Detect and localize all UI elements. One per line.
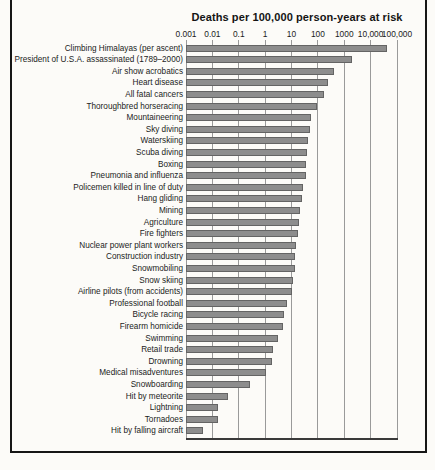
category-label: Medical misadventures xyxy=(0,367,183,378)
category-label: Boxing xyxy=(0,159,183,170)
x-axis-tick-label: 10,000 xyxy=(358,29,384,39)
bar xyxy=(186,265,295,272)
category-label: Air show acrobatics xyxy=(0,66,183,77)
x-axis-tick-label: 100 xyxy=(311,29,325,39)
bar xyxy=(186,161,306,168)
bar xyxy=(186,288,292,295)
bar xyxy=(186,230,298,237)
gridline xyxy=(265,40,266,439)
x-axis-tick-label: 1 xyxy=(263,29,268,39)
chart-title: Deaths per 100,000 person-years at risk xyxy=(153,11,435,23)
category-label: President of U.S.A. assassinated (1789–2… xyxy=(0,54,183,65)
bar xyxy=(186,195,302,202)
bar xyxy=(186,103,317,110)
gridline xyxy=(186,40,187,439)
category-label: Nuclear power plant workers xyxy=(0,240,183,251)
category-label: Snow skiing xyxy=(0,275,183,286)
category-label: Airline pilots (from accidents) xyxy=(0,286,183,297)
bar xyxy=(186,358,272,365)
x-axis-tick-label: 0.01 xyxy=(204,29,220,39)
gridline xyxy=(212,40,213,439)
category-label: Fire fighters xyxy=(0,228,183,239)
bar xyxy=(186,56,352,63)
gridline xyxy=(317,40,318,439)
bar xyxy=(186,114,311,121)
bar xyxy=(186,172,306,179)
category-label: Retail trade xyxy=(0,344,183,355)
bar xyxy=(186,416,218,423)
bar xyxy=(186,253,295,260)
bar xyxy=(186,126,310,133)
category-label: Scuba diving xyxy=(0,147,183,158)
category-label: Waterskiing xyxy=(0,135,183,146)
bar xyxy=(186,427,203,434)
category-label: Policemen killed in line of duty xyxy=(0,182,183,193)
category-label: Swimming xyxy=(0,333,183,344)
x-axis-tick-label: 0.001 xyxy=(176,29,197,39)
category-label: Hit by falling aircraft xyxy=(0,425,183,436)
category-label: All fatal cancers xyxy=(0,89,183,100)
bar xyxy=(186,393,228,400)
category-label: Pneumonia and influenza xyxy=(0,170,183,181)
bar xyxy=(186,311,284,318)
category-label: Mountaineering xyxy=(0,112,183,123)
x-axis-line xyxy=(186,438,398,439)
bar xyxy=(186,369,266,376)
bar xyxy=(186,45,387,52)
category-label: Sky diving xyxy=(0,124,183,135)
gridline xyxy=(238,40,239,439)
bar xyxy=(186,242,296,249)
bar xyxy=(186,79,328,86)
gridline xyxy=(344,40,345,439)
x-axis-tick-label: 100,000 xyxy=(382,29,412,39)
category-label: Drowning xyxy=(0,356,183,367)
category-label: Snowmobiling xyxy=(0,263,183,274)
category-label: Hang gliding xyxy=(0,193,183,204)
x-axis-tick-label: 10 xyxy=(287,29,296,39)
category-label: Mining xyxy=(0,205,183,216)
bar xyxy=(186,149,307,156)
bar xyxy=(186,207,300,214)
bar xyxy=(186,323,283,330)
x-axis-tick-label: 1000 xyxy=(335,29,354,39)
category-label: Thoroughbred horseracing xyxy=(0,101,183,112)
x-axis-tick-label: 0.1 xyxy=(233,29,245,39)
bar xyxy=(186,300,287,307)
category-label: Hit by meteorite xyxy=(0,391,183,402)
category-label: Tornadoes xyxy=(0,414,183,425)
bar xyxy=(186,404,218,411)
category-label: Firearm homicide xyxy=(0,321,183,332)
bar xyxy=(186,277,293,284)
category-label: Climbing Himalayas (per ascent) xyxy=(0,43,183,54)
category-label: Professional football xyxy=(0,298,183,309)
bar xyxy=(186,184,303,191)
risk-figure: Deaths per 100,000 person-years at risk … xyxy=(0,0,435,470)
gridline xyxy=(397,40,398,439)
gridline xyxy=(370,40,371,439)
bar xyxy=(186,68,334,75)
category-label: Construction industry xyxy=(0,251,183,262)
bar xyxy=(186,335,278,342)
category-label: Heart disease xyxy=(0,77,183,88)
gridline xyxy=(291,40,292,439)
bar xyxy=(186,346,273,353)
bar xyxy=(186,137,308,144)
bar xyxy=(186,91,324,98)
category-label: Lightning xyxy=(0,402,183,413)
category-label: Agriculture xyxy=(0,217,183,228)
bar xyxy=(186,381,250,388)
bar xyxy=(186,219,299,226)
category-label: Snowboarding xyxy=(0,379,183,390)
category-label: Bicycle racing xyxy=(0,309,183,320)
